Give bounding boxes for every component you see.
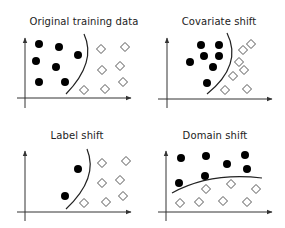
class-a-dot bbox=[241, 151, 249, 159]
class-a-dot bbox=[197, 41, 205, 49]
class-a-dot bbox=[175, 179, 183, 187]
class-b-diamond bbox=[97, 45, 106, 54]
class-a-dot bbox=[74, 51, 82, 59]
class-b-diamond bbox=[240, 66, 249, 75]
class-b-diamond bbox=[243, 85, 252, 94]
class-a-dot bbox=[203, 79, 211, 87]
class-b-diamond bbox=[98, 159, 107, 168]
class-a-dot bbox=[201, 172, 209, 180]
class-b-diamond bbox=[252, 185, 261, 194]
class-b-diamond bbox=[122, 157, 131, 166]
class-a-dot bbox=[61, 78, 69, 86]
class-b-diamond bbox=[116, 62, 125, 71]
class-a-dot bbox=[243, 165, 251, 173]
class-b-diamond bbox=[80, 199, 89, 208]
class-b-diamond bbox=[239, 46, 248, 55]
class-a-dot bbox=[186, 58, 194, 66]
panel-title-label-shift: Label shift bbox=[51, 130, 104, 142]
panel-covariate bbox=[158, 33, 272, 108]
panel-title-original-training-data: Original training data bbox=[30, 16, 139, 28]
class-a-dot bbox=[35, 78, 43, 86]
class-a-dot bbox=[202, 152, 210, 160]
class-a-dot bbox=[35, 40, 43, 48]
class-a-dot bbox=[55, 43, 63, 51]
figure-canvas bbox=[0, 0, 285, 228]
class-b-diamond bbox=[227, 180, 236, 189]
class-b-diamond bbox=[116, 176, 125, 185]
class-a-dot bbox=[61, 192, 69, 200]
panel-original bbox=[17, 34, 131, 108]
class-a-dot bbox=[223, 160, 231, 168]
class-a-dot bbox=[177, 154, 185, 162]
panel-title-domain-shift: Domain shift bbox=[183, 130, 248, 142]
class-a-dot bbox=[215, 41, 223, 49]
class-a-dot bbox=[215, 52, 223, 60]
class-b-diamond bbox=[247, 40, 256, 49]
class-b-diamond bbox=[219, 197, 228, 206]
class-b-diamond bbox=[102, 198, 111, 207]
class-b-diamond bbox=[121, 43, 130, 52]
decision-boundary-curve bbox=[66, 149, 90, 209]
class-a-dot bbox=[209, 63, 217, 71]
decision-boundary-curve bbox=[172, 177, 262, 193]
distribution-shift-figure: Original training data Covariate shift L… bbox=[0, 0, 285, 228]
class-b-diamond bbox=[119, 78, 128, 87]
class-b-diamond bbox=[119, 192, 128, 201]
class-b-diamond bbox=[229, 72, 238, 81]
class-a-dot bbox=[32, 57, 40, 65]
class-b-diamond bbox=[176, 199, 185, 208]
panel-domain bbox=[158, 151, 272, 221]
class-b-diamond bbox=[243, 198, 252, 207]
class-a-dot bbox=[52, 63, 60, 71]
class-b-diamond bbox=[98, 179, 107, 188]
class-b-diamond bbox=[80, 86, 89, 95]
class-b-diamond bbox=[202, 185, 211, 194]
class-b-diamond bbox=[221, 86, 230, 95]
panel-label bbox=[17, 149, 131, 221]
class-a-dot bbox=[74, 165, 82, 173]
class-b-diamond bbox=[235, 58, 244, 67]
class-b-diamond bbox=[98, 66, 107, 75]
class-a-dot bbox=[200, 52, 208, 60]
panel-title-covariate-shift: Covariate shift bbox=[182, 16, 257, 28]
class-b-diamond bbox=[195, 198, 204, 207]
class-b-diamond bbox=[101, 85, 110, 94]
decision-boundary-curve bbox=[66, 34, 88, 94]
